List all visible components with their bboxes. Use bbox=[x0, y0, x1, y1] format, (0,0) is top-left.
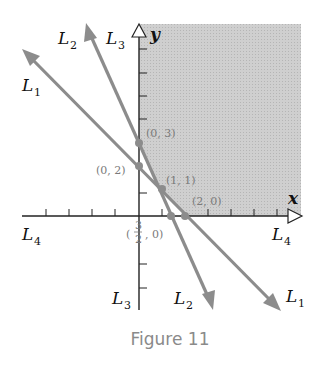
x-axis-label: x bbox=[287, 188, 299, 208]
y-axis-label: y bbox=[149, 24, 161, 44]
svg-text:2: 2 bbox=[186, 299, 193, 312]
label-L3-bottom: L 3 bbox=[111, 288, 131, 312]
svg-text:1: 1 bbox=[298, 297, 305, 310]
figure-caption: Figure 11 bbox=[131, 329, 210, 349]
svg-text:L: L bbox=[111, 288, 123, 308]
label-point-0-2: (0, 2) bbox=[96, 164, 126, 177]
label-L1-bottom: L 1 bbox=[285, 286, 305, 310]
svg-text:L: L bbox=[285, 286, 297, 306]
svg-text:, 0): , 0) bbox=[145, 228, 163, 241]
point-2-0 bbox=[181, 212, 189, 220]
figure-canvas: (0, 3) (0, 2) (1, 1) (2, 0) ( 3 2 , 0) y… bbox=[0, 0, 319, 369]
svg-text:2: 2 bbox=[70, 39, 77, 52]
svg-text:L: L bbox=[21, 224, 33, 244]
label-L4-left: L 4 bbox=[21, 224, 41, 248]
label-L2-top: L 2 bbox=[57, 28, 77, 52]
svg-text:(: ( bbox=[126, 228, 130, 241]
arrowhead-icon bbox=[84, 23, 97, 42]
label-point-2-0: (2, 0) bbox=[192, 195, 222, 208]
point-0-3 bbox=[135, 139, 143, 147]
label-point-3-2-0: ( 3 2 , 0) bbox=[126, 219, 163, 246]
svg-text:L: L bbox=[21, 75, 33, 95]
svg-text:3: 3 bbox=[124, 299, 131, 312]
svg-text:1: 1 bbox=[34, 86, 41, 99]
point-3-2-0 bbox=[167, 212, 175, 220]
point-1-1 bbox=[158, 185, 166, 193]
label-L4-right: L 4 bbox=[271, 224, 291, 248]
label-L2-bottom: L 2 bbox=[173, 288, 193, 312]
svg-text:4: 4 bbox=[284, 235, 291, 248]
label-point-0-3: (0, 3) bbox=[146, 127, 176, 140]
svg-text:3: 3 bbox=[135, 219, 142, 232]
point-0-2 bbox=[135, 162, 143, 170]
label-L1-top: L 1 bbox=[21, 75, 41, 99]
svg-text:3: 3 bbox=[118, 39, 125, 52]
label-point-1-1: (1, 1) bbox=[166, 174, 196, 187]
svg-text:4: 4 bbox=[34, 235, 41, 248]
svg-text:L: L bbox=[105, 28, 117, 48]
label-L3-top: L 3 bbox=[105, 28, 125, 52]
svg-text:L: L bbox=[271, 224, 283, 244]
arrowhead-icon bbox=[202, 290, 215, 310]
svg-text:L: L bbox=[173, 288, 185, 308]
svg-text:L: L bbox=[57, 28, 69, 48]
svg-text:2: 2 bbox=[135, 233, 142, 246]
